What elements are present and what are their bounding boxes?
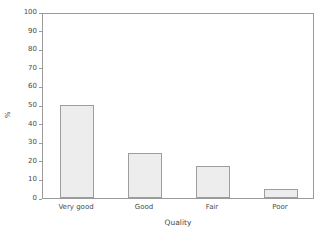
y-tick-label: 70 xyxy=(28,64,37,73)
x-axis-label: Fair xyxy=(206,202,219,212)
y-axis: 0102030405060708090100 xyxy=(0,0,42,212)
y-tick-label: 30 xyxy=(28,138,37,147)
x-axis-label: Poor xyxy=(272,202,287,212)
y-tick-label: 100 xyxy=(24,8,37,17)
y-axis-title: % xyxy=(1,108,15,122)
bar xyxy=(60,105,94,198)
x-axis-labels: Very goodGoodFairPoor xyxy=(42,202,314,214)
y-tick-label: 40 xyxy=(28,120,37,129)
y-tick-label: 50 xyxy=(28,101,37,110)
y-tick-label: 90 xyxy=(28,27,37,36)
y-tick-label: 0 xyxy=(33,194,37,203)
bar xyxy=(128,153,162,198)
bar xyxy=(264,189,298,198)
bar-chart: 0102030405060708090100 % Very goodGoodFa… xyxy=(0,0,327,241)
x-axis-label: Very good xyxy=(58,202,93,212)
y-tick-label: 10 xyxy=(28,175,37,184)
plot-area xyxy=(42,13,314,199)
y-tick-label: 80 xyxy=(28,45,37,54)
y-tick-label: 20 xyxy=(28,157,37,166)
bars-layer xyxy=(43,14,313,198)
bar xyxy=(196,166,230,198)
x-axis-label: Good xyxy=(135,202,153,212)
y-tick-label: 60 xyxy=(28,82,37,91)
x-axis-title: Quality xyxy=(42,218,314,228)
